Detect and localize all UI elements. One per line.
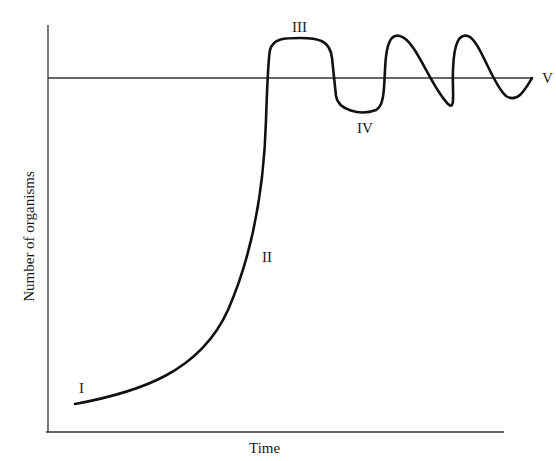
phase-label-i: I	[79, 381, 84, 396]
phase-label-ii: II	[262, 250, 272, 265]
y-axis-label: Number of organisms	[21, 162, 38, 312]
phase-label-v: V	[542, 71, 553, 86]
phase-label-iii: III	[292, 20, 307, 35]
x-axis-label: Time	[249, 441, 280, 456]
population-curve	[75, 36, 532, 404]
phase-label-iv: IV	[357, 121, 373, 136]
